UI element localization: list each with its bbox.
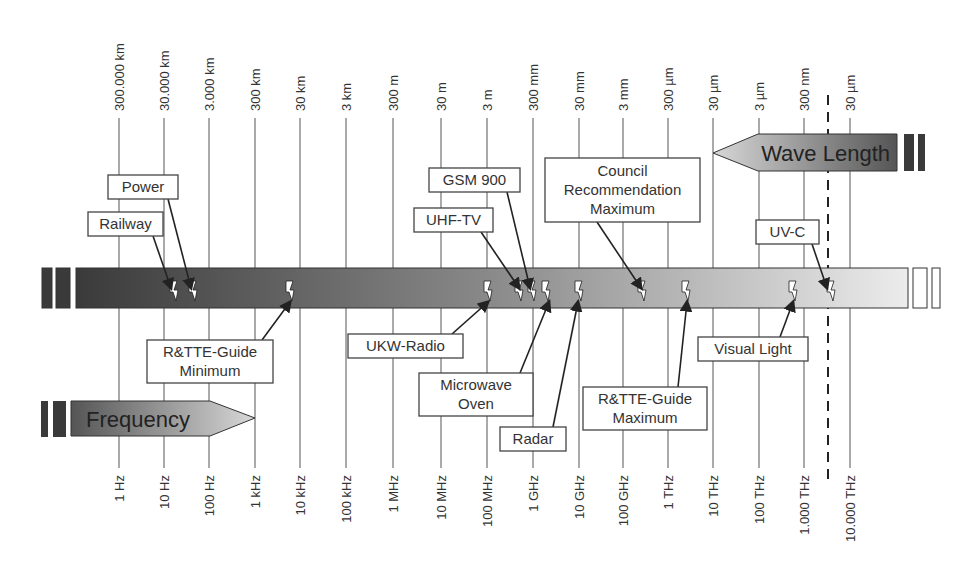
wavelength-tick: 300 mm bbox=[526, 64, 541, 111]
spectrum-band bbox=[42, 268, 940, 308]
wavelength-tick: 30 µm bbox=[843, 75, 858, 111]
frequency-tick: 1 Hz bbox=[112, 475, 127, 502]
frequency-tick: 1 kHz bbox=[248, 475, 263, 508]
annotation-visual-light: Visual Light bbox=[698, 302, 808, 361]
annotation-microwave: MicrowaveOven bbox=[419, 302, 549, 416]
wavelength-tick: 30 m bbox=[434, 82, 449, 111]
wavelength-tick: 30.000 km bbox=[157, 50, 172, 111]
frequency-tick: 1 MHz bbox=[386, 475, 401, 513]
pointer-arrow bbox=[678, 302, 687, 387]
annotation-text: R&TTE-Guide bbox=[163, 343, 257, 360]
frequency-tick: 1.000 THz bbox=[797, 475, 812, 535]
frequency-tick: 10 Hz bbox=[157, 475, 172, 509]
annotation-text: Radar bbox=[513, 430, 554, 447]
annotation-text: GSM 900 bbox=[443, 171, 506, 188]
annotation-text: R&TTE-Guide bbox=[598, 390, 692, 407]
annotation-text: Maximum bbox=[590, 200, 655, 217]
frequency-label: Frequency bbox=[86, 407, 190, 432]
wavelength-tick: 30 µm bbox=[706, 75, 721, 111]
annotation-ukw-radio: UKW-Radio bbox=[348, 302, 488, 358]
frequency-tick: 100 GHz bbox=[616, 475, 631, 526]
frequency-tick: 100 kHz bbox=[339, 475, 354, 523]
pointer-arrow bbox=[520, 302, 549, 373]
wavelength-tick: 300 m bbox=[386, 75, 401, 111]
annotation-text: Maximum bbox=[612, 409, 677, 426]
frequency-tick: 10 GHz bbox=[572, 475, 587, 519]
wavelength-tick: 3 km bbox=[339, 83, 354, 111]
wavelength-tick: 300 km bbox=[248, 68, 263, 111]
wavelength-label: Wave Length bbox=[761, 141, 890, 166]
annotation-text: Power bbox=[122, 178, 165, 195]
wavelength-tick: 3 m bbox=[480, 89, 495, 111]
wavelength-tick: 30 mm bbox=[572, 71, 587, 111]
frequency-tick: 100 MHz bbox=[480, 475, 495, 527]
annotation-rttte-min: R&TTE-GuideMinimum bbox=[147, 302, 290, 383]
pointer-arrow bbox=[553, 302, 578, 427]
wavelength-tick: 3 µm bbox=[752, 82, 767, 111]
em-spectrum-diagram: 300.000 km30.000 km3.000 km300 km30 km3 … bbox=[0, 0, 969, 572]
annotation-text: UV-C bbox=[770, 223, 806, 240]
wavelength-tick: 300 nm bbox=[797, 68, 812, 111]
annotation-text: Recommendation bbox=[564, 181, 682, 198]
annotation-text: UKW-Radio bbox=[366, 337, 445, 354]
annotation-text: Railway bbox=[99, 215, 152, 232]
annotation-text: Minimum bbox=[180, 362, 241, 379]
frequency-tick: 10.000 THz bbox=[843, 475, 858, 542]
frequency-tick: 100 Hz bbox=[202, 475, 217, 516]
frequency-tick: 10 THz bbox=[706, 475, 721, 517]
wavelength-tick: 3 mm bbox=[616, 79, 631, 112]
frequency-tick: 10 kHz bbox=[293, 475, 308, 515]
wavelength-tick: 300 µm bbox=[661, 67, 676, 111]
annotation-text: UHF-TV bbox=[426, 211, 481, 228]
frequency-tick: 100 THz bbox=[752, 475, 767, 524]
frequency-arrow: Frequency bbox=[41, 401, 255, 437]
wavelength-tick-labels: 300.000 km30.000 km3.000 km300 km30 km3 … bbox=[112, 43, 858, 111]
wavelength-arrow: Wave Length bbox=[713, 134, 925, 171]
annotation-text: Microwave bbox=[440, 376, 512, 393]
annotation-text: Oven bbox=[458, 395, 494, 412]
wavelength-tick: 30 km bbox=[293, 76, 308, 111]
frequency-tick: 1 THz bbox=[661, 475, 676, 509]
annotation-rttte-max: R&TTE-GuideMaximum bbox=[583, 302, 707, 430]
frequency-tick: 10 MHz bbox=[434, 475, 449, 520]
annotation-text: Visual Light bbox=[714, 340, 792, 357]
frequency-tick: 1 GHz bbox=[526, 475, 541, 512]
wavelength-tick: 3.000 km bbox=[202, 58, 217, 111]
wavelength-tick: 300.000 km bbox=[112, 43, 127, 111]
annotation-text: Council bbox=[597, 162, 647, 179]
frequency-tick-labels: 1 Hz10 Hz100 Hz1 kHz10 kHz100 kHz1 MHz10… bbox=[112, 475, 858, 542]
